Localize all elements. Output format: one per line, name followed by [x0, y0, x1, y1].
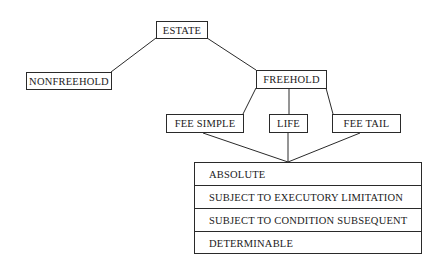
- subtype-row: ABSOLUTE: [195, 163, 421, 186]
- node-estate: ESTATE: [156, 21, 208, 39]
- node-life: LIFE: [269, 114, 308, 133]
- node-label: LIFE: [277, 118, 300, 129]
- subtype-label: ABSOLUTE: [209, 169, 265, 180]
- subtype-row: DETERMINABLE: [195, 232, 421, 255]
- node-fee-simple: FEE SIMPLE: [166, 114, 244, 133]
- node-label: FEE SIMPLE: [175, 118, 236, 129]
- subtype-label: SUBJECT TO CONDITION SUBSEQUENT: [209, 215, 407, 226]
- subtype-label: DETERMINABLE: [209, 238, 293, 249]
- subtype-label: SUBJECT TO EXECUTORY LIMITATION: [209, 192, 403, 203]
- node-label: FREEHOLD: [263, 74, 319, 85]
- subtype-row: SUBJECT TO CONDITION SUBSEQUENT: [195, 209, 421, 232]
- node-label: FEE TAIL: [344, 118, 390, 129]
- node-label: NONFREEHOLD: [29, 76, 109, 87]
- node-freehold: FREEHOLD: [256, 70, 327, 89]
- node-nonfreehold: NONFREEHOLD: [26, 72, 112, 90]
- node-label: ESTATE: [163, 25, 201, 36]
- subtype-row: SUBJECT TO EXECUTORY LIMITATION: [195, 186, 421, 209]
- subtypes-table: ABSOLUTE SUBJECT TO EXECUTORY LIMITATION…: [194, 162, 422, 254]
- node-fee-tail: FEE TAIL: [332, 114, 401, 133]
